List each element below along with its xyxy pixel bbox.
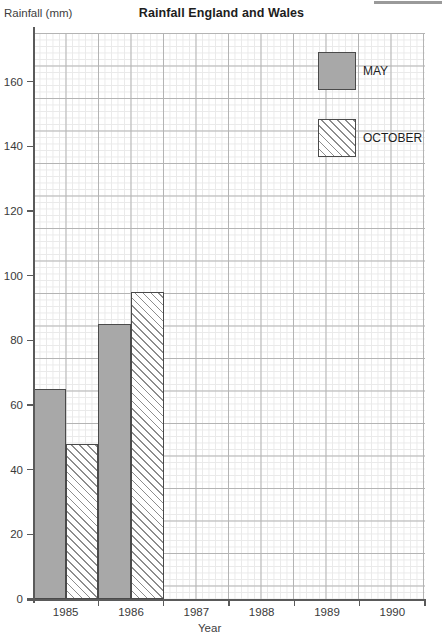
- x-axis-tick-label: 1986: [118, 606, 144, 618]
- x-axis-tick-label: 1990: [380, 606, 406, 618]
- plot-area: MAYOCTOBER: [33, 33, 425, 600]
- y-axis-tick: 0: [27, 598, 34, 599]
- y-axis-tick: 120: [27, 210, 34, 211]
- bar-may-1986: [98, 324, 131, 599]
- x-axis-tick: [98, 599, 99, 606]
- x-axis-tick-label: 1987: [184, 606, 210, 618]
- x-axis-tick: [424, 599, 425, 606]
- y-axis-tick: 60: [27, 404, 34, 405]
- y-axis-tick: 80: [27, 340, 34, 341]
- x-axis-tick: [359, 599, 360, 606]
- bar-october-1985: [66, 444, 99, 599]
- bar-may-1985: [33, 389, 66, 599]
- x-axis-tick-label: 1988: [249, 606, 275, 618]
- legend-label: MAY: [363, 64, 388, 78]
- y-axis-tick-label: 160: [4, 75, 23, 87]
- y-axis-tick: 100: [27, 275, 34, 276]
- y-axis-tick: 140: [27, 146, 34, 147]
- legend-label: OCTOBER: [363, 131, 422, 145]
- y-axis-tick-label: 20: [10, 528, 23, 540]
- y-axis-tick: 20: [27, 534, 34, 535]
- y-axis-tick-label: 120: [4, 205, 23, 217]
- y-axis-tick: 40: [27, 469, 34, 470]
- legend-solid-gray-swatch: [318, 52, 356, 90]
- top-rule: [374, 1, 442, 4]
- y-axis-tick-label: 40: [10, 463, 23, 475]
- legend-hatched-swatch: [318, 119, 356, 157]
- x-axis-tick: [163, 599, 164, 606]
- y-axis-label: Rainfall (mm): [4, 7, 72, 19]
- y-axis-tick-label: 100: [4, 269, 23, 281]
- x-axis-tick-label: 1985: [53, 606, 79, 618]
- y-axis-line: [33, 27, 35, 603]
- x-axis-line: [27, 599, 425, 601]
- x-axis-tick-label: 1989: [314, 606, 340, 618]
- y-axis-tick-label: 60: [10, 399, 23, 411]
- y-axis-tick-label: 140: [4, 140, 23, 152]
- x-axis-tick: [228, 599, 229, 606]
- bar-october-1986: [131, 292, 164, 599]
- y-axis-tick-label: 80: [10, 334, 23, 346]
- y-axis-tick: 160: [27, 81, 34, 82]
- x-axis-tick: [294, 599, 295, 606]
- x-axis-label: Year: [198, 622, 221, 634]
- y-axis-tick-label: 0: [17, 593, 23, 605]
